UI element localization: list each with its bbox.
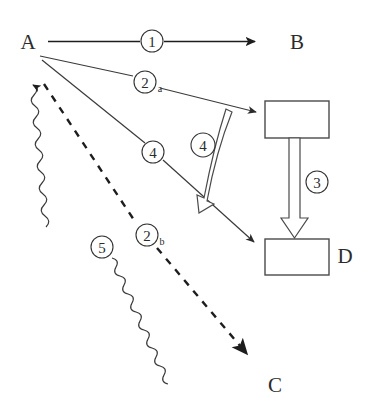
diagram-canvas: 1 2 a 4 4 3 [0,0,369,406]
node-label-a: A [20,30,36,54]
edge-2b-line-upper [44,84,136,223]
edge-5-badge-label: 5 [98,240,106,256]
node-label-c: C [268,373,282,397]
edge-4-thin-badge-label: 4 [149,145,157,161]
edge-2a-line-left [40,56,133,76]
edge-1-badge-label: 1 [148,34,156,50]
edge-4-curved-badge-label: 4 [199,138,207,154]
edge-5-wavy-lower [112,258,168,384]
block-box-bottom[interactable] [265,239,329,275]
edge-2a-badge-label: 2 [141,75,149,91]
edge-4-curved-arrow-body [197,109,232,213]
edge-2b-line-lower [157,248,247,354]
block-box-top[interactable] [265,101,329,138]
diagram-svg: 1 2 a 4 4 3 [0,0,369,406]
edge-3-group: 3 [281,138,328,238]
edge-5-wavy-upper [31,85,49,227]
edge-2a-badge-subscript: a [158,83,163,94]
edge-3-arrow-body [281,138,308,238]
edge-4-curved-group: 4 [191,109,232,213]
edge-3-badge-label: 3 [313,175,321,191]
edge-2b-group: 2 b [44,84,247,354]
node-label-b: B [290,30,304,54]
edge-2b-badge-label: 2 [143,228,151,244]
edge-1-group: 1 [48,30,255,52]
edge-2a-line-right [160,88,256,112]
node-label-d: D [337,244,352,268]
edge-2b-badge-subscript: b [160,236,165,247]
edge-4-line-upper [42,60,145,143]
